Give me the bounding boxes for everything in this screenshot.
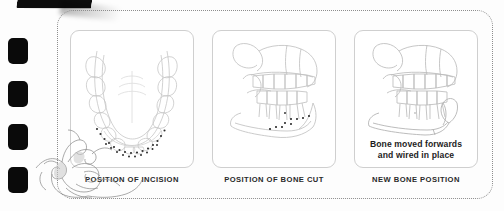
panel-incision: POSITION OF INCISION	[67, 30, 197, 184]
lateral-jaw-bonecut-illustration	[213, 31, 335, 167]
binding-strip	[0, 0, 40, 211]
inpanel-text-line-2: and wired in place	[355, 150, 477, 161]
wire-fixation-dot	[414, 112, 416, 114]
panel-incision-figure	[70, 30, 194, 168]
binding-punch-3	[8, 124, 28, 150]
scanned-page: POSITION OF INCISION	[0, 0, 504, 211]
illustration-panel-row: POSITION OF INCISION	[57, 10, 491, 197]
panel-bone-cut-caption: POSITION OF BONE CUT	[224, 175, 324, 184]
panel-new-position: Bone moved forwards and wired in place N…	[351, 30, 481, 184]
occlusal-arch-illustration	[71, 31, 193, 167]
panel-incision-caption: POSITION OF INCISION	[85, 175, 179, 184]
inpanel-text-line-1: Bone moved forwards	[355, 139, 477, 150]
binding-punch-2	[8, 81, 28, 107]
panel-bone-cut-figure	[212, 30, 336, 168]
panel-new-position-inpanel-text: Bone moved forwards and wired in place	[355, 139, 477, 161]
panel-new-position-caption: NEW BONE POSITION	[372, 175, 460, 184]
binding-punch-1	[8, 38, 28, 64]
panel-new-position-figure: Bone moved forwards and wired in place	[354, 30, 478, 168]
panel-bone-cut: POSITION OF BONE CUT	[209, 30, 339, 184]
binding-punch-4	[8, 167, 28, 193]
